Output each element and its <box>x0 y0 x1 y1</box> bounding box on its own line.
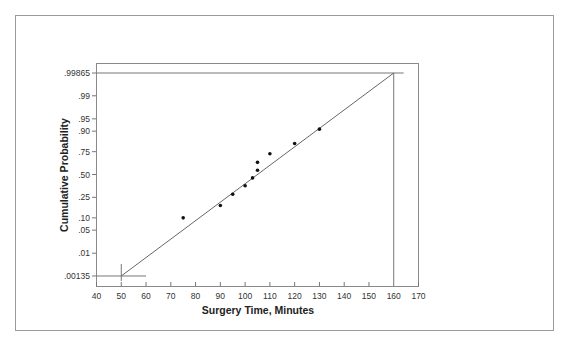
x-axis: 405060708090100110120130140150160170 <box>92 282 426 301</box>
data-point <box>268 152 272 156</box>
x-tick-label: 70 <box>166 291 176 301</box>
y-tick-label: .01 <box>78 248 90 258</box>
data-point <box>181 216 185 220</box>
data-point <box>219 204 223 208</box>
x-tick-label: 170 <box>411 291 425 301</box>
y-tick-label: .10 <box>78 213 90 223</box>
y-tick-label: .00135 <box>64 271 90 281</box>
x-tick-label: 150 <box>362 291 376 301</box>
fit-line-segment <box>121 73 393 276</box>
x-tick-label: 80 <box>191 291 201 301</box>
fit-line <box>121 73 393 276</box>
data-point <box>231 192 235 196</box>
data-point <box>243 184 247 188</box>
data-point <box>318 127 322 131</box>
x-tick-label: 50 <box>117 291 127 301</box>
x-tick-label: 130 <box>312 291 326 301</box>
y-tick-label: .99865 <box>64 68 90 78</box>
data-point <box>256 168 260 172</box>
x-tick-label: 100 <box>238 291 252 301</box>
data-point <box>293 142 297 146</box>
y-tick-label: .50 <box>78 170 90 180</box>
x-tick-label: 60 <box>141 291 151 301</box>
x-axis-title: Surgery Time, Minutes <box>202 304 315 316</box>
y-tick-label: .90 <box>78 126 90 136</box>
data-point <box>256 161 260 165</box>
x-tick-label: 90 <box>216 291 226 301</box>
x-tick-label: 110 <box>263 291 277 301</box>
x-tick-label: 40 <box>92 291 102 301</box>
y-tick-label: .95 <box>78 114 90 124</box>
data-points <box>181 127 321 219</box>
x-tick-label: 140 <box>337 291 351 301</box>
y-tick-label: .25 <box>78 192 90 202</box>
y-tick-label: .99 <box>78 91 90 101</box>
y-tick-label: .05 <box>78 225 90 235</box>
y-axis-title: Cumulative Probability <box>58 118 70 232</box>
y-tick-label: .75 <box>78 147 90 157</box>
x-tick-label: 160 <box>387 291 401 301</box>
reference-lines <box>97 73 404 282</box>
probability-plot: 405060708090100110120130140150160170 .99… <box>0 0 568 348</box>
data-point <box>251 176 255 180</box>
x-tick-label: 120 <box>288 291 302 301</box>
